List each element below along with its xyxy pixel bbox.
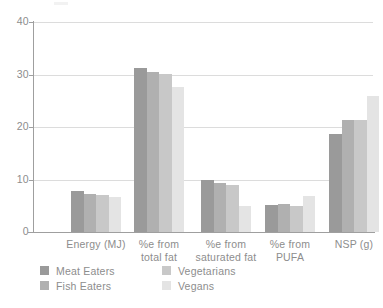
bar — [159, 74, 172, 232]
legend-item[interactable]: Meat Eaters — [40, 264, 115, 277]
bar — [96, 195, 109, 232]
bar — [290, 206, 303, 232]
bar — [214, 183, 227, 232]
clipped-axis-title-artifact — [54, 2, 68, 5]
y-tick-mark-40 — [29, 22, 33, 23]
bar — [329, 134, 342, 232]
bar — [201, 180, 214, 233]
bar-group — [201, 22, 251, 232]
bar — [226, 185, 239, 232]
legend-item[interactable]: Fish Eaters — [40, 279, 111, 292]
legend-swatch — [162, 266, 171, 275]
x-tick-label-line: NSP (g) — [304, 238, 383, 251]
legend-label: Meat Eaters — [56, 265, 115, 277]
y-tick-mark-20 — [29, 127, 33, 128]
y-tick-label-30: 30 — [0, 68, 29, 80]
bar — [367, 96, 380, 233]
bar — [303, 196, 316, 232]
bar — [147, 72, 160, 232]
y-tick-label-0: 0 — [0, 225, 29, 237]
bar — [84, 194, 97, 232]
legend-swatch — [162, 281, 171, 290]
x-axis-line — [28, 232, 375, 233]
bar — [342, 120, 355, 232]
bar — [134, 68, 147, 232]
bar-group — [71, 22, 121, 232]
plot-area — [33, 22, 373, 232]
chart-legend: Meat EatersFish EatersVegetariansVegans — [40, 264, 360, 304]
bar-group — [265, 22, 315, 232]
y-tick-mark-0 — [29, 232, 33, 233]
x-tick-label-line: PUFA — [240, 251, 340, 264]
bar-chart: 010203040 Energy (MJ)%e fromtotal fat%e … — [0, 0, 383, 308]
legend-swatch — [40, 266, 49, 275]
y-tick-label-10: 10 — [0, 173, 29, 185]
y-tick-mark-10 — [29, 180, 33, 181]
bar — [71, 191, 84, 232]
y-axis-line — [33, 21, 34, 233]
bar — [354, 120, 367, 232]
y-tick-label-20: 20 — [0, 120, 29, 132]
bar — [172, 87, 185, 232]
legend-label: Vegetarians — [178, 265, 236, 277]
y-tick-mark-30 — [29, 75, 33, 76]
y-tick-label-40: 40 — [0, 15, 29, 27]
bar — [278, 204, 291, 232]
legend-item[interactable]: Vegans — [162, 279, 214, 292]
bar-group — [329, 22, 379, 232]
legend-label: Vegans — [178, 280, 214, 292]
bar-group — [134, 22, 184, 232]
bar — [109, 197, 122, 232]
legend-label: Fish Eaters — [56, 280, 111, 292]
x-tick-label: NSP (g) — [304, 238, 383, 251]
legend-item[interactable]: Vegetarians — [162, 264, 236, 277]
bar — [265, 205, 278, 232]
bar — [239, 206, 252, 232]
legend-swatch — [40, 281, 49, 290]
